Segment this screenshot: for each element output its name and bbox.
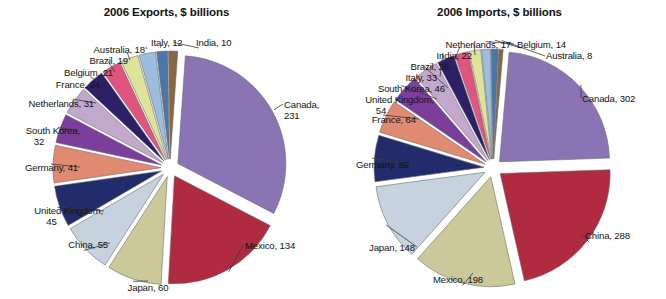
- exports-label-united-kingdom-value: 45: [0, 217, 103, 228]
- pie-slice: [169, 51, 178, 159]
- exports-label-south-korea-value: 32: [0, 137, 78, 148]
- exports-label-south-korea: South Korea,: [0, 126, 80, 137]
- exports-label-belgium: Belgium, 21: [0, 68, 113, 79]
- imports-label-belgium: Belgium, 14: [517, 40, 566, 51]
- exports-label-india: India, 10: [196, 38, 231, 49]
- leader-line: [146, 47, 147, 49]
- exports-label-netherlands: Netherlands, 31: [0, 99, 94, 110]
- imports-label-united-kingdom-value: 54: [333, 106, 429, 117]
- imports-label-canada: Canada, 302: [582, 94, 635, 105]
- imports-label-italy: Italy, 33: [333, 73, 437, 84]
- two-pie-chart-figure: 2006 Exports, $ billions Canada, 231 Mex…: [0, 0, 666, 299]
- imports-label-china: China, 288: [585, 231, 630, 242]
- exports-panel: 2006 Exports, $ billions Canada, 231 Mex…: [0, 0, 333, 299]
- exports-label-italy: Italy, 12: [151, 38, 183, 49]
- imports-label-india: India, 22: [333, 51, 472, 62]
- imports-label-brazil: Brazil, 26: [333, 62, 449, 73]
- imports-label-japan: Japan, 148: [333, 243, 415, 254]
- imports-label-mexico: Mexico, 198: [418, 275, 498, 286]
- imports-label-netherlands: Netherlands, 17: [333, 40, 511, 51]
- leader-line: [274, 104, 283, 110]
- exports-label-australia: Australia, 18: [0, 45, 145, 56]
- exports-label-china: China, 55: [28, 240, 108, 251]
- imports-panel: 2006 Imports, $ billions Canada, 302 Chi…: [333, 0, 666, 299]
- exports-label-canada: Canada,: [284, 100, 319, 111]
- exports-label-canada-value: 231: [284, 111, 300, 122]
- imports-label-australia: Australia, 8: [546, 51, 592, 62]
- imports-label-germany: Germany, 89: [333, 160, 409, 171]
- imports-label-united-kingdom: United Kingdom,: [333, 95, 434, 106]
- pie-slice: [500, 52, 610, 162]
- pie-slice: [500, 170, 610, 281]
- imports-label-south-korea: South Korea, 46: [333, 84, 445, 95]
- exports-label-mexico: Mexico, 134: [245, 241, 295, 252]
- exports-label-united-kingdom: United Kingdom,: [0, 206, 103, 217]
- exports-label-germany: Germany, 41: [0, 163, 78, 174]
- exports-label-france: France, 24: [0, 80, 100, 91]
- exports-label-brazil: Brazil, 19: [0, 56, 128, 67]
- exports-label-japan: Japan, 60: [113, 283, 183, 294]
